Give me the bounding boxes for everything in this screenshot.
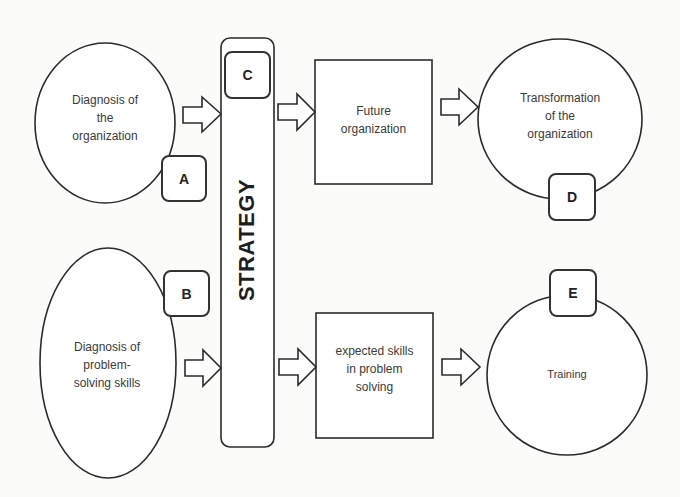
arrow-future-to-transformation-icon [441, 89, 478, 125]
label-training: Training [517, 364, 617, 384]
label-line: solving [356, 378, 393, 396]
tag-e: E [549, 269, 597, 317]
label-line: in problem [346, 360, 402, 378]
strategy-label: STRATEGY [234, 179, 260, 301]
label-line: organization [341, 120, 406, 138]
label-line: problem- [83, 356, 130, 374]
label-line: Future [356, 102, 391, 120]
arrow-b-to-strategy-icon [185, 350, 221, 386]
label-line: organization [527, 125, 592, 143]
diagram-canvas: A B C D E STRATEGY Diagnosis of the orga… [0, 0, 680, 497]
label-line: solving skills [74, 374, 141, 392]
label-line: expected skills [335, 342, 413, 360]
label-transformation: Transformation of the organization [500, 86, 620, 146]
arrow-a-to-strategy-icon [183, 97, 221, 132]
label-line: Diagnosis of [74, 338, 140, 356]
diagram-shapes [0, 0, 680, 497]
label-future-organization: Future organization [315, 100, 432, 140]
arrow-strategy-to-future-icon [278, 94, 315, 130]
label-expected-skills: expected skills in problem solving [316, 339, 433, 399]
label-line: of the [545, 107, 575, 125]
tag-b: B [163, 270, 210, 317]
tag-d: D [548, 173, 596, 221]
label-line: Transformation [520, 89, 600, 107]
arrow-strategy-to-skills-icon [279, 349, 316, 385]
arrow-skills-to-training-icon [442, 349, 480, 385]
tag-c: C [224, 51, 271, 99]
label-diagnosis-organization: Diagnosis of the organization [50, 88, 160, 148]
label-line: Diagnosis of [72, 91, 138, 109]
label-line: Training [547, 365, 586, 383]
tag-a: A [161, 155, 207, 202]
label-line: organization [72, 127, 137, 145]
label-diagnosis-skills: Diagnosis of problem- solving skills [52, 335, 162, 395]
label-line: the [97, 109, 114, 127]
